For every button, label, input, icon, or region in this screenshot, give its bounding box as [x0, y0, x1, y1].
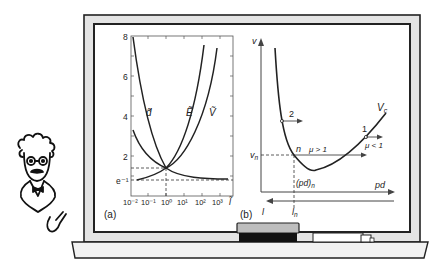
y-tick-2: 2 [123, 152, 128, 162]
y-tick-4: 4 [123, 112, 128, 122]
panel-b-label: (b) [240, 209, 252, 220]
x-tick-0: 10⁻² [123, 198, 138, 207]
mu-gt-label: μ > 1 [308, 145, 327, 154]
x-tick-3: 10¹ [177, 198, 188, 207]
x-tick-4: 10² [195, 198, 206, 207]
chalk-tray [72, 242, 428, 258]
point-n-label: n [296, 144, 301, 154]
y-tick-8: 8 [123, 32, 128, 42]
chalkboard-scene: 8 6 4 2 e⁻¹ 10⁻² 10⁻¹ 10⁰ 10¹ 10² 10³ l̃… [0, 0, 441, 268]
panel-a-label: (a) [104, 209, 116, 220]
y-tick-e-inv: e⁻¹ [116, 176, 129, 186]
point-1-label: 1 [362, 124, 367, 134]
point-2-label: 2 [289, 109, 294, 119]
x-tick-5: 10³ [212, 198, 223, 207]
x-tick-1: 10⁻¹ [141, 198, 156, 207]
curve-label-d: d̃ [146, 107, 152, 118]
professor-icon [18, 134, 66, 232]
eraser-icon [237, 223, 299, 242]
mu-lt-label: μ < 1 [364, 141, 383, 150]
curve-label-E: Ẽ [186, 106, 193, 118]
y-axis-label: v [252, 36, 257, 46]
y-tick-6: 6 [123, 72, 128, 82]
x-tick-2: 10⁰ [161, 198, 172, 207]
x-axis-label-pd: pd [374, 180, 386, 190]
